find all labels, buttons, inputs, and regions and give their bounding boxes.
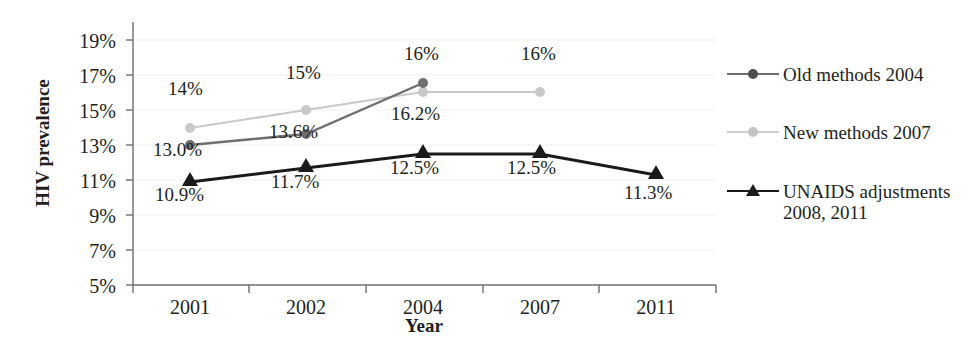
legend-marker-circle-icon (727, 122, 779, 142)
legend-item-old-methods[interactable]: Old methods 2004 (727, 64, 923, 85)
data-label-old-2002: 13.6% (269, 122, 318, 141)
data-label-old-2001: 13.0% (153, 140, 202, 159)
hiv-prevalence-line-chart: HIV prevalence 19% 17% 15% 13% 11% 9% 7%… (0, 0, 974, 352)
legend-label-unaids-adjustments: UNAIDS adjustments 2008, 2011 (783, 181, 950, 223)
data-label-unaids-2011: 11.3% (624, 183, 672, 202)
legend-label-new-methods: New methods 2007 (783, 122, 931, 143)
x-axis-title: Year (132, 315, 716, 337)
legend-label-unaids-line1: UNAIDS adjustments (783, 181, 950, 202)
legend-item-unaids-adjustments[interactable]: UNAIDS adjustments 2008, 2011 (727, 181, 950, 223)
grid-lines (133, 40, 716, 250)
legend-label-unaids-line2: 2008, 2011 (783, 202, 868, 223)
legend-item-new-methods[interactable]: New methods 2007 (727, 122, 931, 143)
y-axis (126, 22, 133, 285)
data-label-old-2004: 16.2% (391, 104, 440, 123)
data-label-unaids-2002: 11.7% (271, 172, 319, 191)
data-label-new-2007: 16% (521, 44, 556, 63)
data-label-new-2001: 14% (168, 79, 203, 98)
legend-marker-circle-icon (727, 64, 779, 84)
data-label-unaids-2001: 10.9% (155, 185, 204, 204)
legend-label-old-methods: Old methods 2004 (783, 64, 923, 85)
data-label-new-2002: 15% (286, 63, 321, 82)
x-axis (133, 285, 716, 293)
data-label-new-2004: 16% (404, 44, 439, 63)
data-label-unaids-2007: 12.5% (507, 158, 556, 177)
legend-marker-triangle-icon (727, 181, 779, 201)
data-label-unaids-2004: 12.5% (390, 158, 439, 177)
